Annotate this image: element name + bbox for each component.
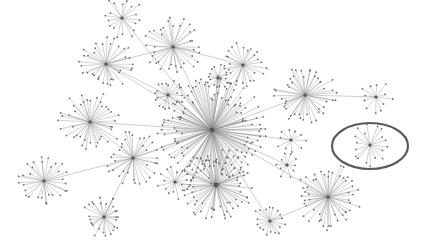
leaf-node <box>277 145 279 147</box>
leaf-node <box>248 202 250 204</box>
leaf-node <box>187 95 189 97</box>
leaf-node <box>114 120 116 122</box>
leaf-node <box>181 101 183 103</box>
leaf-node <box>320 81 322 83</box>
leaf-node <box>303 203 305 205</box>
leaf-node <box>89 142 91 144</box>
leaf-node <box>181 184 183 186</box>
leaf-node <box>327 175 329 177</box>
leaf-node <box>80 104 82 106</box>
leaf-node <box>45 202 47 204</box>
leaf-node <box>192 102 194 104</box>
leaf-node <box>211 207 213 209</box>
leaf-node <box>213 165 215 167</box>
leaf-node <box>33 161 35 163</box>
leaf-node <box>203 163 205 165</box>
leaf-node <box>357 158 359 160</box>
leaf-node <box>377 125 379 127</box>
leaf-node <box>215 160 217 162</box>
leaf-node <box>304 200 306 202</box>
leaf-node <box>293 75 295 77</box>
leaf-node <box>93 52 95 54</box>
leaf-node <box>364 100 366 102</box>
leaf-node <box>380 110 382 112</box>
leaf-node <box>228 69 230 71</box>
hub-node <box>210 128 215 133</box>
leaf-node <box>61 115 63 117</box>
leaf-node <box>279 226 281 228</box>
leaf-node <box>83 55 85 57</box>
leaf-node <box>306 113 308 115</box>
leaf-node <box>211 68 213 70</box>
leaf-node <box>285 100 287 102</box>
leaf-node <box>280 137 282 139</box>
leaf-node <box>201 202 203 204</box>
leaf-node <box>240 169 242 171</box>
leaf-node <box>172 191 174 193</box>
leaf-node <box>230 96 232 98</box>
leaf-node <box>254 150 256 152</box>
leaf-node <box>228 50 230 52</box>
leaf-node <box>222 149 224 151</box>
leaf-node <box>110 126 112 128</box>
leaf-node <box>178 84 180 86</box>
leaf-node <box>115 219 117 221</box>
leaf-node <box>186 179 188 181</box>
leaf-node <box>156 149 158 151</box>
leaf-node <box>186 147 188 149</box>
leaf-node <box>87 55 89 57</box>
leaf-node <box>157 185 159 187</box>
leaf-node <box>240 103 242 105</box>
leaf-node <box>94 47 96 49</box>
leaf-node <box>233 168 235 170</box>
leaf-node <box>220 77 222 79</box>
leaf-node <box>154 46 156 48</box>
leaf-node <box>138 4 140 6</box>
leaf-node <box>191 55 193 57</box>
leaf-node <box>149 136 151 138</box>
leaf-node <box>200 158 202 160</box>
leaf-node <box>342 214 344 216</box>
leaf-node <box>116 210 118 212</box>
leaf-node <box>95 42 97 44</box>
leaf-node <box>111 128 113 130</box>
leaf-node <box>118 72 120 74</box>
leaf-node <box>128 131 130 133</box>
leaf-node <box>41 197 43 199</box>
leaf-node <box>214 94 216 96</box>
leaf-node <box>122 3 124 5</box>
leaf-node <box>251 123 253 125</box>
leaf-node <box>359 206 361 208</box>
leaf-node <box>236 179 238 181</box>
leaf-node <box>186 166 188 168</box>
leaf-node <box>176 100 178 102</box>
leaf-node <box>259 227 261 229</box>
leaf-node <box>381 136 383 138</box>
hub-node <box>368 143 371 146</box>
leaf-node <box>152 55 154 57</box>
leaf-node <box>209 165 211 167</box>
leaf-node <box>48 194 50 196</box>
leaf-node <box>149 62 151 64</box>
leaf-node <box>175 65 177 67</box>
leaf-node <box>233 155 235 157</box>
leaf-node <box>184 194 186 196</box>
leaf-node <box>382 158 384 160</box>
leaf-node <box>135 22 137 24</box>
leaf-node <box>121 143 123 145</box>
leaf-node <box>125 131 127 133</box>
leaf-node <box>224 217 226 219</box>
leaf-node <box>88 215 90 217</box>
leaf-node <box>226 202 228 204</box>
leaf-node <box>248 148 250 150</box>
network-graph-svg <box>0 0 422 246</box>
leaf-node <box>202 163 204 165</box>
leaf-node <box>107 83 109 85</box>
leaf-node <box>110 78 112 80</box>
leaf-node <box>280 168 282 170</box>
leaf-node <box>345 211 347 213</box>
leaf-node <box>361 88 363 90</box>
leaf-node <box>324 174 326 176</box>
hub-node <box>289 138 292 141</box>
leaf-node <box>334 214 336 216</box>
